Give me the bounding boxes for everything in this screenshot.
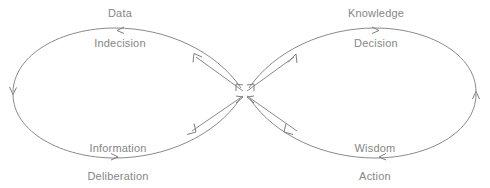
label-knowledge: Knowledge — [348, 7, 404, 20]
label-information: Information — [89, 142, 146, 155]
diagram-canvas — [0, 0, 490, 188]
label-action: Action — [359, 170, 391, 183]
label-data: Data — [108, 7, 132, 20]
center-diagonal-lower-left — [192, 96, 243, 131]
figure-eight-diagram: Data Indecision Knowledge Decision Infor… — [0, 0, 490, 188]
label-deliberation: Deliberation — [87, 170, 148, 183]
center-diagonal-lower-right — [247, 96, 297, 131]
label-decision: Decision — [354, 37, 398, 50]
arrowhead-center-lower-right — [247, 96, 254, 103]
label-wisdom: Wisdom — [355, 142, 396, 155]
label-indecision: Indecision — [94, 37, 146, 50]
